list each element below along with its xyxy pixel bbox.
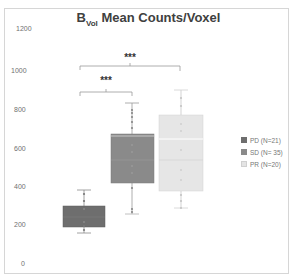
box-pd <box>63 190 105 233</box>
legend-label-pd: PD (N=21) <box>250 137 281 144</box>
y-tick-400: 400 <box>14 183 26 190</box>
y-tick-600: 600 <box>14 145 26 152</box>
box-pr <box>159 90 203 209</box>
y-tick-200: 200 <box>14 221 26 228</box>
y-axis: 1200 1000 800 600 400 200 0 <box>11 25 32 267</box>
significance-inner-label: *** <box>100 75 112 86</box>
legend-item-pr: PR (N=20) <box>241 158 283 170</box>
y-tick-1000: 1000 <box>11 67 27 74</box>
legend-swatch-pd <box>241 137 247 143</box>
y-tick-0: 0 <box>21 260 25 267</box>
legend-swatch-pr <box>241 161 247 167</box>
legend-item-sd: SD (N= 35) <box>241 146 283 158</box>
box-sd <box>111 103 154 214</box>
legend-item-pd: PD (N=21) <box>241 134 283 146</box>
significance-outer <box>80 63 180 71</box>
legend: PD (N=21) SD (N= 35) PR (N=20) <box>241 134 283 170</box>
legend-label-pr: PR (N=20) <box>250 161 281 168</box>
legend-label-sd: SD (N= 35) <box>250 149 283 156</box>
y-tick-800: 800 <box>14 106 26 113</box>
legend-swatch-sd <box>241 149 247 155</box>
significance-inner <box>80 89 132 96</box>
y-tick-1200: 1200 <box>16 25 32 32</box>
significance-outer-label: *** <box>124 52 136 63</box>
